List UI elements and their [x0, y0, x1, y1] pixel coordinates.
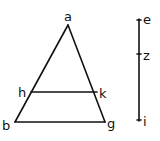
triangle-diagram: a b g h k e z i: [0, 0, 160, 141]
label-z: z: [143, 48, 150, 63]
label-e: e: [143, 12, 151, 27]
label-k: k: [99, 86, 107, 101]
label-a: a: [64, 9, 72, 24]
segment-ag: [68, 25, 105, 122]
label-g: g: [107, 116, 115, 131]
label-i: i: [143, 114, 147, 129]
label-b: b: [2, 118, 10, 133]
label-h: h: [18, 85, 26, 100]
segment-ab: [15, 25, 68, 122]
